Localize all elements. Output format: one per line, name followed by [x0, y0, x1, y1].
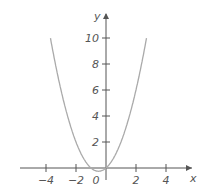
x-axis-arrow-icon [186, 165, 192, 171]
svg-text:4: 4 [163, 174, 170, 187]
svg-text:−2: −2 [68, 174, 84, 187]
svg-text:10: 10 [85, 32, 99, 45]
svg-text:−4: −4 [38, 174, 54, 187]
parabola-chart: x y −4−2024 246810 [0, 0, 204, 189]
svg-text:4: 4 [92, 110, 99, 123]
svg-text:6: 6 [92, 84, 99, 97]
x-axis-label: x [189, 172, 197, 185]
svg-text:2: 2 [92, 136, 99, 149]
x-ticks: −4−2024 [38, 164, 170, 187]
svg-text:8: 8 [92, 58, 99, 71]
y-axis-label: y [93, 10, 101, 23]
svg-text:0: 0 [93, 174, 100, 187]
y-axis-arrow-icon [103, 13, 109, 19]
svg-text:2: 2 [133, 174, 140, 187]
